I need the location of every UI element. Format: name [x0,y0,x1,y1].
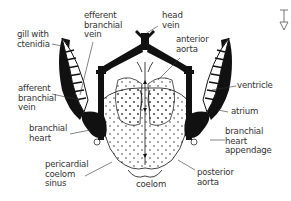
label-efferent-branchial-vein: efferent branchial vein [84,11,122,40]
label-branchial-heart: branchial heart [29,124,67,143]
label-afferent-branchial-vein: afferent branchial vein [18,84,56,113]
label-head-vein: head vein [162,11,183,30]
label-posterior-aorta: posterior aorta [197,168,234,187]
label-gill-with-ctenidia: gill with ctenidia [17,30,50,49]
label-anterior-aorta: anterior aorta [176,35,208,54]
label-pericardial-coelom-sinus: pericardial coelom sinus [45,160,88,189]
label-branchial-heart-appendage: branchial heart appendage [225,127,272,156]
label-coelom: coelom [136,180,166,190]
label-ventricle: ventricle [237,81,273,91]
anterior-posterior-orientation-icon [280,10,288,30]
coelom [128,170,162,177]
label-atrium: atrium [231,107,258,117]
